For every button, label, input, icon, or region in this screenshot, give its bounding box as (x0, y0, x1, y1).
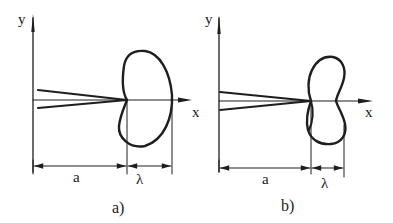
y-axis-arrow-icon (217, 15, 220, 34)
caption-a: a) (112, 199, 124, 217)
y-axis-arrow-icon (31, 14, 34, 32)
caption-b: b) (281, 197, 294, 215)
beam-line-lower-b (220, 101, 311, 110)
radiation-lobe-upper-b (308, 57, 344, 101)
y-axis-label-b: y (205, 11, 213, 27)
x-axis-label-b: x (365, 104, 373, 120)
beam-line-upper-a (38, 90, 127, 100)
wavelength-label-a: λ (136, 171, 144, 187)
x-axis-arrow-icon (358, 99, 373, 104)
x-axis-arrow-icon (178, 98, 192, 103)
beam-line-lower-a (38, 100, 127, 108)
y-axis-label-a: y (18, 11, 26, 27)
panel-b: y x a λ b) (205, 11, 373, 215)
wavelength-label-b: λ (321, 175, 329, 191)
panel-a: y x a λ a) (18, 11, 200, 217)
x-axis-label-a: x (192, 104, 200, 120)
distance-label-b: a (262, 171, 269, 187)
beam-line-upper-b (220, 92, 311, 101)
distance-label-a: a (73, 169, 80, 185)
diagram-canvas: y x a λ a) y x (0, 0, 393, 223)
